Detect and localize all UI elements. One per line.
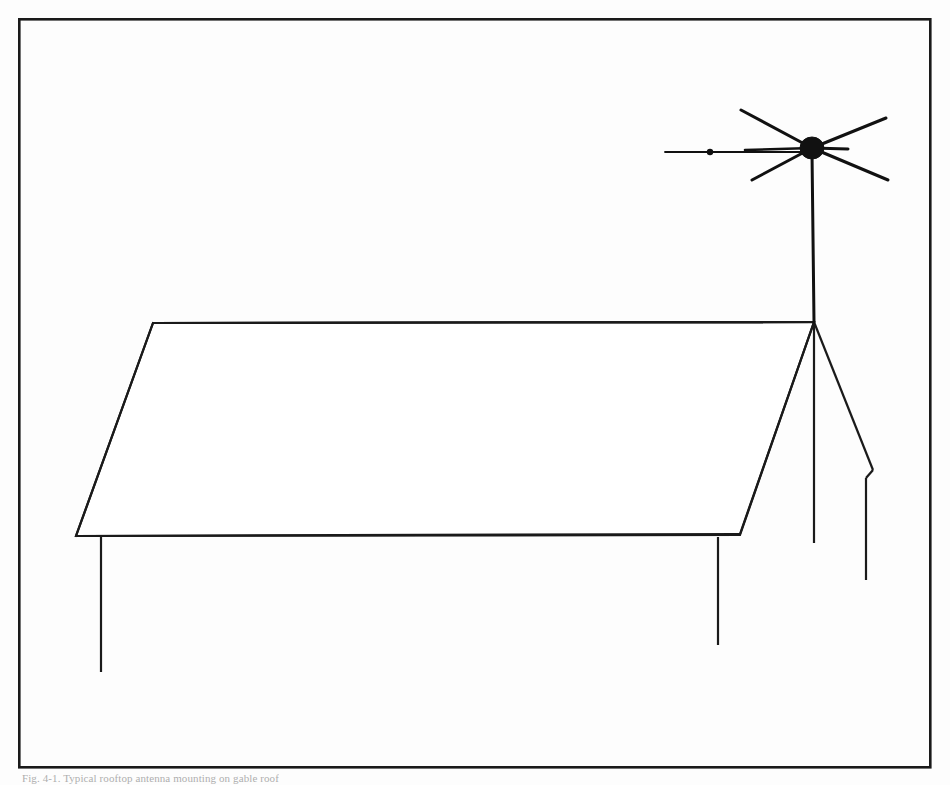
roof-group [76,322,814,536]
antenna-mast [812,152,814,322]
roof-ridge [153,322,814,323]
lead-in-standoff [707,149,713,155]
roof-plane [76,322,814,536]
figure-page: Fig. 4-1. Typical rooftop antenna mounti… [0,0,950,785]
antenna-hub [800,137,824,159]
figure-drawing [0,0,950,785]
figure-caption: Fig. 4-1. Typical rooftop antenna mounti… [22,772,279,785]
